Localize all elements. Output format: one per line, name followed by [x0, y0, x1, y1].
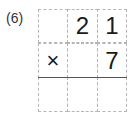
problem-number: (6): [6, 10, 23, 26]
cell-r0-c0: [38, 9, 68, 43]
result-divider-line: [38, 77, 127, 78]
cell-r1-c1: [67, 43, 98, 78]
cell-r0-c1: 2: [67, 9, 98, 43]
answer-cell-c0[interactable]: [38, 77, 68, 112]
cell-r0-c2: 1: [97, 9, 127, 43]
cell-r1-c2: 7: [97, 43, 127, 78]
answer-cell-c1[interactable]: [67, 77, 98, 112]
multiplication-grid: 2 1 × 7: [38, 9, 127, 112]
answer-cell-c2[interactable]: [97, 77, 127, 112]
multiply-sign: ×: [38, 43, 68, 78]
